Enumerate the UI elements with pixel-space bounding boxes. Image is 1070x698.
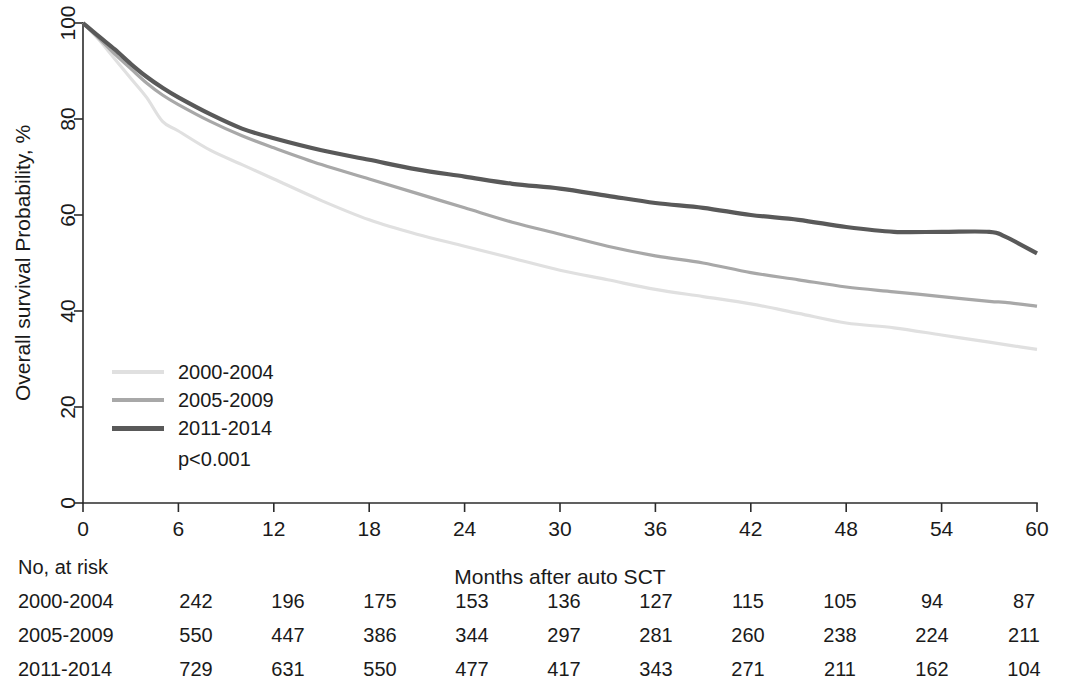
curve-group	[83, 23, 1037, 349]
risk-count-cell: 127	[610, 584, 702, 618]
risk-count-cell: 550	[334, 652, 426, 686]
x-tick-label: 6	[173, 517, 185, 540]
x-tick-label-group: 06121824303642485460	[77, 517, 1049, 540]
risk-count-cell: 196	[242, 584, 334, 618]
risk-row-group-label: 2005-2009	[18, 618, 150, 652]
x-tick-label: 60	[1025, 517, 1048, 540]
risk-count-cell: 550	[150, 618, 242, 652]
survival-curve-2011-2014	[83, 23, 1037, 253]
legend-item-2011-2014: 2011-2014	[112, 414, 274, 442]
y-tick-label-group: 020406080100	[56, 5, 79, 508]
risk-table-row: 2005-2009550447386344297281260238224211	[18, 618, 1070, 652]
risk-table-grid: 2000-20042421961751531361271151059487200…	[18, 584, 1070, 686]
x-tick-label: 36	[644, 517, 667, 540]
risk-table-row: 2011-2014729631550477417343271211162104	[18, 652, 1070, 686]
risk-count-cell: 260	[702, 618, 794, 652]
risk-count-cell: 447	[242, 618, 334, 652]
x-tick-label: 12	[262, 517, 285, 540]
legend-label-2005-2009: 2005-2009	[178, 390, 274, 410]
legend: 2000-2004 2005-2009 2011-2014 p<0.001	[112, 358, 274, 469]
risk-row-group-label: 2011-2014	[18, 652, 150, 686]
risk-count-cell: 136	[518, 584, 610, 618]
risk-count-cell: 281	[610, 618, 702, 652]
risk-count-cell: 115	[702, 584, 794, 618]
risk-count-cell: 297	[518, 618, 610, 652]
x-tick-label: 30	[548, 517, 571, 540]
risk-count-cell: 105	[794, 584, 886, 618]
legend-item-2000-2004: 2000-2004	[112, 358, 274, 386]
x-tick-label: 0	[77, 517, 89, 540]
risk-count-cell: 238	[794, 618, 886, 652]
risk-table-row: 2000-20042421961751531361271151059487	[18, 584, 1070, 618]
x-tick-label: 24	[453, 517, 477, 540]
survival-chart-figure: 020406080100 06121824303642485460 Overal…	[0, 0, 1070, 698]
risk-count-cell: 87	[978, 584, 1070, 618]
risk-table-title: No, at risk	[18, 556, 108, 579]
risk-count-cell: 162	[886, 652, 978, 686]
x-tick-label: 42	[739, 517, 762, 540]
risk-count-cell: 729	[150, 652, 242, 686]
survival-curve-2005-2009	[83, 23, 1037, 306]
legend-swatch-2011-2014	[112, 426, 164, 431]
legend-swatch-2005-2009	[112, 398, 164, 402]
x-tick-label: 54	[930, 517, 954, 540]
risk-count-cell: 242	[150, 584, 242, 618]
risk-count-cell: 153	[426, 584, 518, 618]
x-tick-label: 48	[835, 517, 858, 540]
risk-count-cell: 417	[518, 652, 610, 686]
y-axis-title: Overall survival Probability, %	[11, 125, 34, 401]
risk-count-cell: 343	[610, 652, 702, 686]
risk-count-cell: 631	[242, 652, 334, 686]
legend-item-2005-2009: 2005-2009	[112, 386, 274, 414]
risk-count-cell: 104	[978, 652, 1070, 686]
risk-count-cell: 271	[702, 652, 794, 686]
risk-count-cell: 175	[334, 584, 426, 618]
legend-label-2011-2014: 2011-2014	[178, 418, 272, 438]
risk-count-cell: 94	[886, 584, 978, 618]
x-tick-label: 18	[358, 517, 381, 540]
legend-label-2000-2004: 2000-2004	[178, 362, 274, 382]
risk-row-group-label: 2000-2004	[18, 584, 150, 618]
risk-count-cell: 211	[978, 618, 1070, 652]
risk-count-cell: 211	[794, 652, 886, 686]
risk-count-cell: 477	[426, 652, 518, 686]
survival-curve-2000-2004	[83, 23, 1037, 349]
legend-swatch-2000-2004	[112, 370, 164, 374]
risk-count-cell: 224	[886, 618, 978, 652]
risk-count-cell: 344	[426, 618, 518, 652]
risk-count-cell: 386	[334, 618, 426, 652]
p-value-annotation: p<0.001	[178, 449, 274, 469]
